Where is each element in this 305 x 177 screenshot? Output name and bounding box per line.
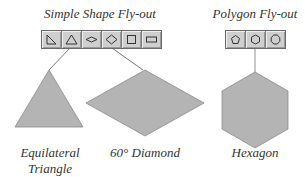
square-icon	[125, 34, 138, 45]
rectangle-button[interactable]	[142, 31, 161, 48]
diamond-shape	[86, 70, 204, 136]
diamond-icon	[105, 34, 118, 45]
hexagon-icon	[249, 34, 262, 45]
square-button[interactable]	[122, 31, 142, 48]
simple-shape-toolbar	[41, 30, 162, 49]
rectangle-icon	[145, 34, 158, 45]
right-triangle-icon	[45, 34, 58, 45]
equilateral-triangle-shape	[15, 70, 83, 127]
triangle-label-line2: Triangle	[0, 161, 100, 177]
polygon-toolbar	[225, 30, 286, 49]
hexagon-label: Hexagon	[215, 145, 295, 161]
flat-diamond-icon	[85, 34, 98, 45]
diamond-button[interactable]	[102, 31, 122, 48]
triangle-icon	[65, 34, 78, 45]
pentagon-icon	[229, 34, 242, 45]
triangle-label: Equilateral Triangle	[0, 145, 100, 177]
diamond-label: 60° Diamond	[95, 145, 195, 161]
triangle-label-line1: Equilateral	[0, 145, 100, 161]
right-triangle-button[interactable]	[42, 31, 62, 48]
triangle-connector-line	[49, 48, 70, 70]
flat-diamond-button[interactable]	[82, 31, 102, 48]
pentagon-button[interactable]	[226, 31, 246, 48]
triangle-button[interactable]	[62, 31, 82, 48]
hexagon-shape	[222, 72, 288, 148]
octagon-button[interactable]	[266, 31, 285, 48]
octagon-icon	[269, 34, 282, 45]
hexagon-button[interactable]	[246, 31, 266, 48]
diamond-connector-line	[112, 48, 143, 70]
